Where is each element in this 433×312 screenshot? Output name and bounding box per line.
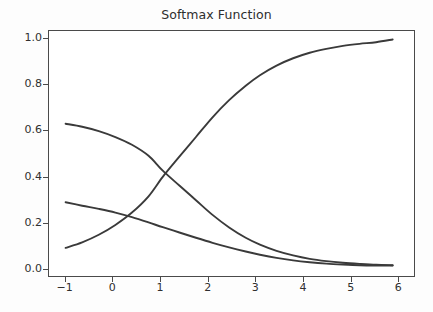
x-tick-mark (112, 277, 113, 282)
x-tick-mark (398, 277, 399, 282)
series-line-class-3-falling-shallow (66, 202, 393, 265)
x-tick-mark (208, 277, 209, 282)
y-tick-label: 0.6 (25, 123, 43, 136)
x-tick-label: 5 (336, 281, 366, 294)
x-tick-label: 6 (383, 281, 413, 294)
y-axis-tick-labels: 0.00.20.40.60.81.0 (0, 0, 42, 312)
series-line-class-2-falling-steep (66, 124, 393, 266)
x-tick-label: 4 (288, 281, 318, 294)
x-tick-label: 3 (240, 281, 270, 294)
curve-series-group (49, 31, 414, 276)
y-tick-label: 0.4 (25, 170, 43, 183)
figure-canvas: Softmax Function 0.00.20.40.60.81.0 −101… (0, 0, 433, 312)
y-tick-label: 1.0 (25, 31, 43, 44)
x-tick-label: 2 (193, 281, 223, 294)
chart-title: Softmax Function (0, 7, 433, 22)
x-tick-label: −1 (50, 281, 80, 294)
x-tick-mark (303, 277, 304, 282)
y-tick-label: 0.8 (25, 77, 43, 90)
y-tick-label: 0.2 (25, 216, 43, 229)
series-line-class-1-rising (66, 39, 393, 247)
x-tick-label: 0 (97, 281, 127, 294)
x-tick-mark (351, 277, 352, 282)
plot-area (48, 30, 415, 277)
x-tick-label: 1 (145, 281, 175, 294)
x-tick-mark (160, 277, 161, 282)
y-tick-label: 0.0 (25, 262, 43, 275)
x-tick-mark (65, 277, 66, 282)
x-tick-mark (255, 277, 256, 282)
